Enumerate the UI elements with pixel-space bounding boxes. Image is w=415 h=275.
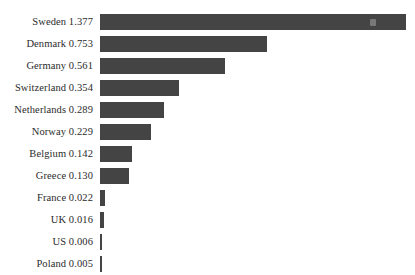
bar [100,212,104,228]
bar [100,256,102,272]
bar-track [100,256,410,272]
bar-row-label: France 0.022 [0,187,93,209]
bar [100,14,406,30]
bar [100,234,102,250]
bar [100,146,132,162]
bar-track [100,36,410,52]
bar-row: Belgium 0.142 [0,143,415,165]
bar-row-label: Norway 0.229 [0,121,93,143]
bar-row: Switzerland 0.354 [0,77,415,99]
bar-row-label: Greece 0.130 [0,165,93,187]
bar-track [100,190,410,206]
bar-track [100,80,410,96]
bar-row: Poland 0.005 [0,253,415,275]
bar-track [100,102,410,118]
bar-row: UK 0.016 [0,209,415,231]
bar-row: US 0.006 [0,231,415,253]
bar-row: Germany 0.561 [0,55,415,77]
bar-row: France 0.022 [0,187,415,209]
bar [100,102,164,118]
bar-row-label: Belgium 0.142 [0,143,93,165]
bar-track [100,58,410,74]
bar-row-label: Germany 0.561 [0,55,93,77]
bar-row-label: Netherlands 0.289 [0,99,93,121]
bar-track [100,234,410,250]
bar [100,190,105,206]
bar-row: Denmark 0.753 [0,33,415,55]
bar-row-label: US 0.006 [0,231,93,253]
bar-track [100,212,410,228]
bar-row-label: Sweden 1.377 [0,11,93,33]
bar-row: Sweden 1.377 [0,11,415,33]
bar-row-label: Denmark 0.753 [0,33,93,55]
bar [100,168,129,184]
bar [100,58,225,74]
bar-row-label: Switzerland 0.354 [0,77,93,99]
bar-row: Greece 0.130 [0,165,415,187]
bar-rows: Sweden 1.377Denmark 0.753Germany 0.561Sw… [0,11,415,275]
bar-row: Netherlands 0.289 [0,99,415,121]
bar-track [100,124,410,140]
bar [100,36,267,52]
bar-row-label: UK 0.016 [0,209,93,231]
bar [100,80,179,96]
bar-track [100,168,410,184]
bar-track [100,14,410,30]
bar-row: Norway 0.229 [0,121,415,143]
bar-track [100,146,410,162]
bar-row-label: Poland 0.005 [0,253,93,275]
bar [100,124,151,140]
